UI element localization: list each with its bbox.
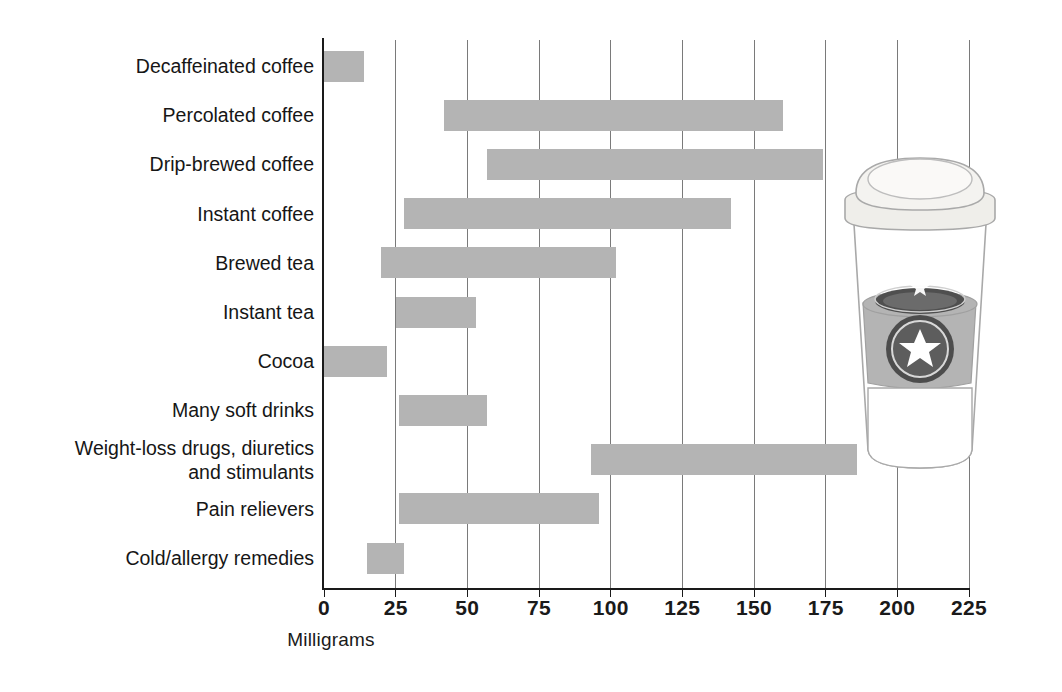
cup-lid-inner-ring <box>868 159 972 199</box>
category-label-0: Decaffeinated coffee <box>0 54 314 78</box>
bar-7 <box>399 395 488 426</box>
x-tick-label-175: 175 <box>808 596 844 620</box>
bar-0 <box>324 51 364 82</box>
category-label-2: Drip-brewed coffee <box>0 152 314 176</box>
x-tick-label-100: 100 <box>593 596 629 620</box>
x-tick-label-225: 225 <box>951 596 987 620</box>
bar-5 <box>396 297 476 328</box>
category-label-9: Pain relievers <box>0 497 314 521</box>
category-label-1: Percolated coffee <box>0 103 314 127</box>
x-tick-label-200: 200 <box>879 596 915 620</box>
x-tick-label-125: 125 <box>664 596 700 620</box>
bar-6 <box>324 346 387 377</box>
caffeine-range-chart: Decaffeinated coffeePercolated coffeeDri… <box>0 0 1062 692</box>
x-axis-title: Milligrams <box>0 629 1062 651</box>
x-axis-line <box>322 588 970 590</box>
gridline-175 <box>825 40 826 588</box>
category-label-10: Cold/allergy remedies <box>0 546 314 570</box>
x-tick-label-50: 50 <box>455 596 479 620</box>
category-label-5: Instant tea <box>0 300 314 324</box>
category-label-8: Weight-loss drugs, diuretics and stimula… <box>0 436 314 484</box>
chart-page: Decaffeinated coffeePercolated coffeeDri… <box>0 0 1062 692</box>
bar-2 <box>487 149 822 180</box>
bar-8 <box>591 444 858 475</box>
x-tick-label-75: 75 <box>527 596 551 620</box>
cup-lower-body <box>868 388 972 468</box>
bar-10 <box>367 543 404 574</box>
bar-4 <box>381 247 616 278</box>
x-tick-label-25: 25 <box>384 596 408 620</box>
y-axis-line <box>322 38 324 588</box>
x-axis-title-text: Milligrams <box>287 629 375 650</box>
category-label-7: Many soft drinks <box>0 398 314 422</box>
x-tick-label-0: 0 <box>318 596 330 620</box>
sleeve-inner-shadow-2 <box>883 292 957 310</box>
category-label-3: Instant coffee <box>0 202 314 226</box>
takeout-coffee-cup-illustration <box>834 138 1006 486</box>
x-tick-label-150: 150 <box>736 596 772 620</box>
category-label-4: Brewed tea <box>0 251 314 275</box>
category-label-6: Cocoa <box>0 349 314 373</box>
bar-9 <box>399 493 600 524</box>
bar-1 <box>444 100 782 131</box>
bar-3 <box>404 198 731 229</box>
